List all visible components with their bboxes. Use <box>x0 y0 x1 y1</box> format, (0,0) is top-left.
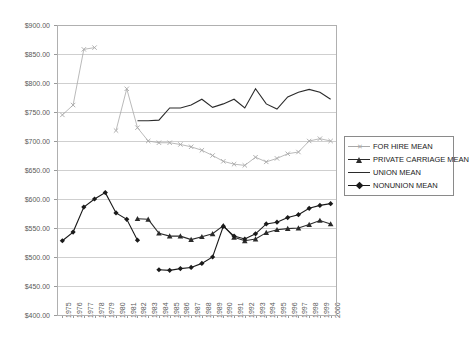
data-point <box>307 206 312 211</box>
data-point <box>253 155 257 159</box>
y-axis-tick-label: $500.00 <box>4 254 50 261</box>
legend-x-icon: ✕ <box>348 141 370 153</box>
data-point <box>296 212 301 217</box>
data-point <box>103 190 108 195</box>
series-for-hire-mean <box>60 45 333 167</box>
data-point <box>317 218 323 223</box>
data-point <box>135 125 139 129</box>
series-line <box>137 89 330 121</box>
legend-item[interactable]: UNION MEAN <box>348 166 449 179</box>
data-point <box>60 113 64 117</box>
data-point <box>200 148 204 152</box>
data-point <box>189 265 194 270</box>
legend-label: NONUNION MEAN <box>373 179 438 192</box>
series-union-mean <box>137 89 330 121</box>
data-point <box>156 267 161 272</box>
data-point <box>124 217 129 222</box>
legend-item[interactable]: NONUNION MEAN <box>348 179 449 192</box>
y-axis-tick <box>54 315 57 316</box>
data-point <box>113 210 118 215</box>
y-axis-tick-label: $700.00 <box>4 138 50 145</box>
data-point <box>135 238 140 243</box>
y-axis-tick-label: $850.00 <box>4 51 50 58</box>
y-axis-tick-label: $900.00 <box>4 22 50 29</box>
legend-label: FOR HIRE MEAN <box>373 140 433 153</box>
legend-diamond-icon <box>348 180 370 192</box>
chart-legend: ✕FOR HIRE MEANPRIVATE CARRIAGE MEANUNION… <box>344 136 454 196</box>
chart-svg <box>57 25 336 315</box>
y-axis-tick-label: $550.00 <box>4 225 50 232</box>
y-axis-tick-label: $450.00 <box>4 283 50 290</box>
data-point <box>167 268 172 273</box>
legend-label: UNION MEAN <box>373 166 421 179</box>
legend-none-icon <box>348 167 370 179</box>
y-axis-tick-label: $750.00 <box>4 109 50 116</box>
legend-item[interactable]: PRIVATE CARRIAGE MEAN <box>348 153 449 166</box>
y-axis-tick-label: $400.00 <box>4 312 50 319</box>
data-point <box>221 159 225 163</box>
legend-triangle-icon <box>348 154 370 166</box>
legend-item[interactable]: ✕FOR HIRE MEAN <box>348 140 449 153</box>
data-point <box>178 266 183 271</box>
plot-area <box>57 25 336 315</box>
y-axis-tick-label: $600.00 <box>4 196 50 203</box>
data-point <box>210 254 215 259</box>
y-axis-tick-label: $800.00 <box>4 80 50 87</box>
y-axis-tick-label: $650.00 <box>4 167 50 174</box>
data-point <box>199 261 204 266</box>
series-nonunion-mean <box>60 190 333 273</box>
data-point <box>264 160 268 164</box>
series-line <box>62 48 94 115</box>
data-point <box>328 201 333 206</box>
series-line <box>116 89 331 166</box>
data-point <box>285 215 290 220</box>
data-point <box>274 220 279 225</box>
data-point <box>317 203 322 208</box>
data-point <box>275 156 279 160</box>
data-point <box>210 153 214 157</box>
legend-label: PRIVATE CARRIAGE MEAN <box>373 153 469 166</box>
series-private-carriage-mean <box>135 216 334 243</box>
